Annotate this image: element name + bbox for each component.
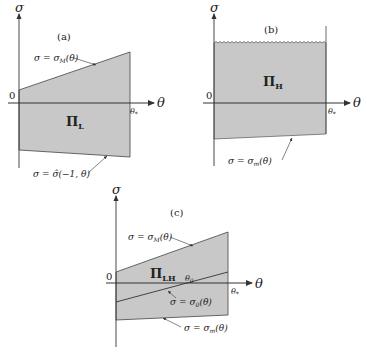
upper-curve-pointer-c (170, 237, 193, 246)
lower-curve-label-b: σ = σm(θ) (228, 156, 272, 167)
upper-curve-label-a: σ = σM(θ) (34, 53, 79, 64)
panel-b: σ θ 0 (b) θ* ΠH σ = σm(θ) (203, 0, 361, 167)
panel-c: σ θ 0 (c) θ* θ0 ΠLH σ = σM(θ) σ = σ0(θ) … (106, 182, 263, 347)
stress-region-diagram: σ θ 0 (a) θ* ΠL σ = σM(θ) σ = σ̂(−1, θ) … (0, 0, 367, 355)
origin-label-b: 0 (206, 90, 212, 101)
panel-label-b: (b) (264, 24, 278, 35)
panel-a: σ θ 0 (a) θ* ΠL σ = σM(θ) σ = σ̂(−1, θ) (8, 0, 165, 179)
origin-label-a: 0 (9, 90, 15, 101)
panel-label-c: (c) (170, 207, 184, 218)
region-pi-l (19, 52, 130, 157)
theta-star-b: θ* (328, 107, 336, 117)
panel-label-a: (a) (57, 31, 71, 42)
region-pi-h (214, 42, 326, 140)
sigma-label-a: σ (15, 0, 25, 15)
theta-label-a: θ (157, 95, 165, 110)
theta-label-b: θ (353, 95, 361, 110)
upper-curve-label-c: σ = σM(θ) (128, 232, 173, 243)
lower-curve-pointer-b (282, 138, 292, 160)
theta-star-a: θ* (130, 107, 138, 117)
lower-curve-label-a: σ = σ̂(−1, θ) (33, 169, 90, 179)
sigma-label-b: σ (210, 0, 220, 15)
lower-curve-pointer-c (163, 318, 181, 327)
lower-curve-label-c: σ = σm(θ) (184, 323, 228, 334)
middle-curve-label-c: σ = σ0(θ) (170, 297, 212, 308)
lower-curve-pointer-a (88, 156, 107, 173)
theta-star-c: θ* (231, 287, 239, 297)
sigma-label-c: σ (112, 182, 122, 197)
origin-label-c: 0 (106, 271, 112, 282)
theta-label-c: θ (255, 276, 263, 291)
